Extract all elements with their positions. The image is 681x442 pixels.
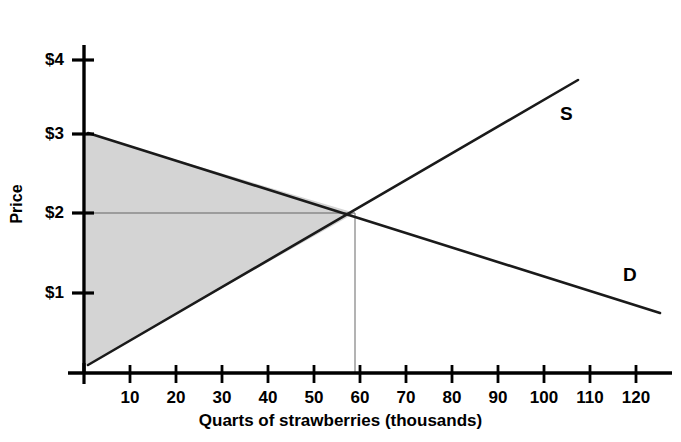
x-tick-label-120: 120 [613,389,659,406]
x-tick-label-10: 10 [107,389,153,406]
x-tick-label-30: 30 [199,389,245,406]
y-tick-label-3: $3 [18,125,64,142]
demand-curve-label: D [623,265,637,284]
x-tick-label-80: 80 [429,389,475,406]
x-tick-label-20: 20 [153,389,199,406]
x-tick-label-50: 50 [291,389,337,406]
x-axis-title: Quarts of strawberries (thousands) [0,411,681,431]
x-tick-label-90: 90 [475,389,521,406]
x-tick-label-100: 100 [521,389,567,406]
plot-area [0,0,681,442]
shaded-surplus-region [86,133,355,365]
y-axis-title: Price [8,174,26,234]
x-tick-label-40: 40 [245,389,291,406]
x-tick-label-60: 60 [337,389,383,406]
x-tick-label-110: 110 [567,389,613,406]
supply-demand-chart: $4 $3 $2 $1 10 20 30 40 50 60 70 80 90 1… [0,0,681,442]
x-tick-label-70: 70 [383,389,429,406]
supply-curve-label: S [560,104,573,123]
y-tick-label-1: $1 [18,284,64,301]
y-tick-label-4: $4 [18,51,64,68]
